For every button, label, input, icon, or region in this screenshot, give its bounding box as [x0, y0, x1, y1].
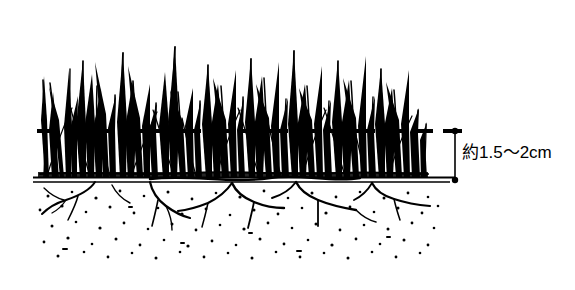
lawn-height-diagram: 約1.5〜2cm [0, 0, 575, 290]
soil-surface-line [33, 177, 455, 182]
grass-blades [38, 46, 428, 178]
mowing-height-label: 約1.5〜2cm [462, 143, 552, 163]
dimension-top-dot [452, 128, 458, 134]
soil-stipple [39, 190, 440, 260]
height-dimension-line [452, 128, 458, 183]
dimension-bottom-dot [452, 177, 458, 183]
grass-roots [42, 182, 430, 230]
